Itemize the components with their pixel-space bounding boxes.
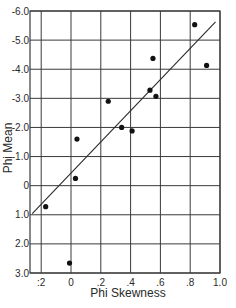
- data-point: [129, 128, 134, 133]
- data-point: [150, 56, 155, 61]
- data-point: [43, 204, 48, 209]
- grid-lines: [30, 11, 220, 273]
- data-point: [204, 63, 209, 68]
- x-axis-label: Phi Skewness: [90, 286, 165, 300]
- y-axis-label: Phi Mean: [1, 123, 15, 174]
- x-tick-label: 1.0: [213, 277, 227, 288]
- plot-frame: [30, 11, 220, 273]
- scatter-chart: -6.0-5.0-4.0-3.0-2.0-1.001.02.03.0 :20.2…: [0, 0, 236, 308]
- data-point: [119, 125, 124, 130]
- y-tick-label: -5.0: [12, 35, 30, 46]
- x-tick-label: .8: [186, 277, 195, 288]
- data-point: [106, 99, 111, 104]
- data-point: [73, 176, 78, 181]
- y-tick-label: 2.0: [15, 238, 29, 249]
- regression-line: [32, 22, 215, 214]
- data-point: [153, 94, 158, 99]
- data-points: [43, 22, 209, 266]
- y-tick-label: -3.0: [12, 93, 30, 104]
- y-tick-label: 3.0: [15, 268, 29, 279]
- data-point: [147, 88, 152, 93]
- y-tick-label: 1.0: [15, 209, 29, 220]
- x-tick-label: 0: [68, 277, 74, 288]
- data-point: [192, 22, 197, 27]
- y-tick-label: -6.0: [12, 6, 30, 17]
- data-point: [67, 261, 72, 266]
- chart-canvas: -6.0-5.0-4.0-3.0-2.0-1.001.02.03.0 :20.2…: [0, 0, 236, 308]
- y-tick-label: -4.0: [12, 64, 30, 75]
- x-tick-label: :2: [37, 277, 46, 288]
- trend-line: [32, 22, 215, 214]
- data-point: [74, 136, 79, 141]
- y-tick-label: 0: [23, 180, 29, 191]
